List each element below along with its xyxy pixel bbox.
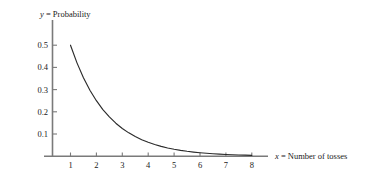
x-tick-label-6: 6 (198, 160, 202, 170)
probability-chart-figure: y = Probability x = Number of tosses 0.5… (0, 0, 374, 184)
x-axis-tick-labels: 1 2 3 4 5 6 7 8 (68, 160, 254, 170)
y-tick-label-0.2: 0.2 (37, 107, 48, 117)
x-tick-label-4: 4 (146, 160, 151, 170)
chart-plot-area: y = Probability x = Number of tosses 0.5… (0, 0, 374, 184)
x-tick-label-3: 3 (120, 160, 124, 170)
x-axis-label: x = Number of tosses (274, 151, 347, 161)
y-tick-label-0.5: 0.5 (37, 40, 48, 50)
y-tick-label-0.1: 0.1 (37, 129, 48, 139)
x-tick-label-5: 5 (172, 160, 176, 170)
x-tick-label-1: 1 (68, 160, 72, 170)
x-tick-label-2: 2 (94, 160, 98, 170)
probability-decay-curve (71, 45, 252, 155)
y-tick-label-0.3: 0.3 (37, 85, 48, 95)
x-tick-label-8: 8 (250, 160, 254, 170)
x-axis-label-text: = Number of tosses (279, 151, 348, 161)
y-tick-label-0.4: 0.4 (37, 62, 48, 72)
x-tick-label-7: 7 (224, 160, 228, 170)
y-axis-tick-labels: 0.5 0.4 0.3 0.2 0.1 (37, 40, 48, 139)
y-axis-label: y = Probability (39, 9, 91, 19)
y-axis-label-text: = Probability (44, 9, 92, 19)
